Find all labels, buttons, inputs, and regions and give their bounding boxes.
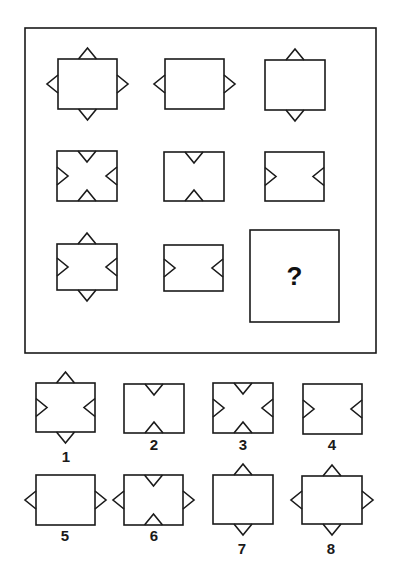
answer-option-label[interactable]: 1 xyxy=(62,448,70,465)
answer-option-label[interactable]: 4 xyxy=(328,436,337,453)
answer-option-label[interactable]: 6 xyxy=(150,527,158,544)
outward-triangle-right-icon xyxy=(183,491,194,509)
outward-triangle-bottom-icon xyxy=(57,432,75,443)
outward-triangle-top-icon xyxy=(323,465,341,476)
matrix-cell-r3c2 xyxy=(164,245,223,291)
outward-triangle-top-icon xyxy=(57,372,75,383)
figure-rectangle xyxy=(265,60,325,110)
answer-option-4[interactable]: 4 xyxy=(303,384,362,453)
outward-triangle-bottom-icon xyxy=(79,109,97,120)
outward-triangle-right-icon xyxy=(362,491,373,509)
answer-option-label[interactable]: 7 xyxy=(238,540,246,557)
inward-triangle-bottom-icon xyxy=(78,190,96,201)
answer-option-7[interactable]: 7 xyxy=(213,464,273,557)
matrix-cell-r3c1 xyxy=(57,233,117,301)
outward-triangle-left-icon xyxy=(154,75,165,93)
answer-options: 12345678 xyxy=(25,372,373,557)
outward-triangle-right-icon xyxy=(95,491,106,509)
figure-rectangle[interactable] xyxy=(302,476,362,524)
inward-triangle-top-icon xyxy=(78,151,96,162)
outward-triangle-bottom-icon xyxy=(234,524,252,535)
answer-option-label[interactable]: 3 xyxy=(239,436,247,453)
figure-rectangle xyxy=(164,245,223,291)
figure-rectangle[interactable] xyxy=(36,475,95,525)
outward-triangle-bottom-icon xyxy=(78,290,96,301)
matrix-cell-r2c1 xyxy=(57,151,117,201)
inward-triangle-right-icon xyxy=(313,168,324,186)
outward-triangle-bottom-icon xyxy=(286,110,304,121)
matrix-cell-r1c2 xyxy=(154,59,235,109)
inward-triangle-bottom-icon xyxy=(185,190,203,201)
answer-option-1[interactable]: 1 xyxy=(36,372,95,465)
figure-rectangle xyxy=(58,59,117,109)
outward-triangle-bottom-icon xyxy=(323,524,341,535)
figure-rectangle xyxy=(57,244,117,290)
inward-triangle-left-icon xyxy=(164,259,175,277)
missing-cell: ? xyxy=(250,230,339,322)
inward-triangle-left-icon xyxy=(57,167,68,185)
figure-rectangle[interactable] xyxy=(213,383,273,433)
answer-option-label[interactable]: 5 xyxy=(61,527,69,544)
matrix-cell-r2c3 xyxy=(265,152,324,201)
outward-triangle-right-icon xyxy=(117,75,128,93)
matrix-cell-r1c3 xyxy=(265,49,325,121)
outward-triangle-right-icon xyxy=(224,75,235,93)
inward-triangle-right-icon xyxy=(106,258,117,276)
outward-triangle-top-icon xyxy=(79,48,97,59)
answer-option-6[interactable]: 6 xyxy=(113,475,194,544)
outward-triangle-top-icon xyxy=(286,49,304,60)
figure-rectangle xyxy=(265,152,324,201)
answer-option-2[interactable]: 2 xyxy=(124,384,184,453)
matrix-cell-r1c1 xyxy=(47,48,128,120)
outward-triangle-top-icon xyxy=(78,233,96,244)
inward-triangle-left-icon xyxy=(57,258,68,276)
answer-option-3[interactable]: 3 xyxy=(213,383,273,453)
figure-rectangle xyxy=(165,59,224,109)
question-mark: ? xyxy=(287,261,303,291)
answer-option-5[interactable]: 5 xyxy=(25,475,106,544)
figure-rectangle xyxy=(57,151,117,201)
figure-rectangle[interactable] xyxy=(213,475,273,524)
outward-triangle-left-icon xyxy=(291,491,302,509)
inward-triangle-right-icon xyxy=(212,259,223,277)
outward-triangle-left-icon xyxy=(113,491,124,509)
figure-rectangle xyxy=(164,152,224,201)
inward-triangle-left-icon xyxy=(265,168,276,186)
outward-triangle-left-icon xyxy=(25,491,36,509)
outward-triangle-left-icon xyxy=(47,75,58,93)
matrix-grid xyxy=(47,48,325,301)
matrix-cell-r2c2 xyxy=(164,152,224,201)
figure-rectangle[interactable] xyxy=(303,384,362,434)
figure-rectangle[interactable] xyxy=(124,475,183,525)
outward-triangle-top-icon xyxy=(234,464,252,475)
inward-triangle-top-icon xyxy=(185,152,203,163)
figure-rectangle[interactable] xyxy=(36,383,95,432)
answer-option-label[interactable]: 2 xyxy=(150,436,158,453)
answer-option-8[interactable]: 8 xyxy=(291,465,373,557)
figure-rectangle[interactable] xyxy=(124,384,184,433)
puzzle-canvas: ? 12345678 xyxy=(0,0,398,574)
answer-option-label[interactable]: 8 xyxy=(327,540,335,557)
inward-triangle-right-icon xyxy=(106,167,117,185)
